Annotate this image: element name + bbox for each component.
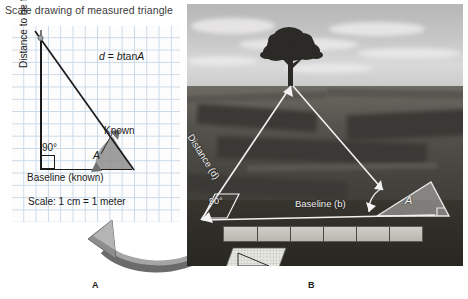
tape-tick: [290, 227, 291, 241]
tape-tick: [323, 227, 324, 241]
panel-b-photograph: Distance (d) Baseline (b) 90° A: [187, 4, 463, 266]
scale-note-label: Scale: 1 cm = 1 meter: [28, 196, 126, 207]
tape-tick: [257, 227, 258, 241]
tape-tick: [356, 227, 357, 241]
angle-A-label: A: [93, 149, 100, 161]
formula-angle-A: A: [137, 50, 144, 62]
apex-node: [38, 35, 43, 40]
right-angle-overlay-label: 90°: [209, 196, 223, 206]
right-angle-label: 90°: [42, 142, 57, 153]
baseline-axis-label: Baseline (known): [27, 172, 104, 183]
inset-paper-grid: [225, 248, 286, 266]
formula-d: d: [99, 50, 105, 62]
tape-tick: [389, 227, 390, 241]
angle-A-overlay-label: A: [405, 194, 412, 206]
figure-caption-b: B: [308, 280, 315, 290]
baseline-overlay-label: Baseline (b): [295, 198, 346, 209]
formula-tan: tan: [123, 50, 138, 62]
formula-equals: =: [108, 50, 114, 62]
formula-text: d = btanA: [99, 50, 144, 62]
scale-drawing-inset-icon: [225, 247, 287, 266]
baseline-line: [203, 215, 435, 220]
sight-line: [293, 86, 383, 190]
figure-caption-a: A: [92, 280, 99, 290]
right-angle-marker: [41, 155, 55, 169]
known-annotation-label: Known: [104, 125, 135, 136]
angle-triangle-overlay: [377, 182, 449, 216]
angle-arc-arrowhead: [366, 202, 376, 212]
measuring-tape: [223, 226, 423, 242]
distance-axis-label: Distance to be found: [18, 0, 29, 68]
